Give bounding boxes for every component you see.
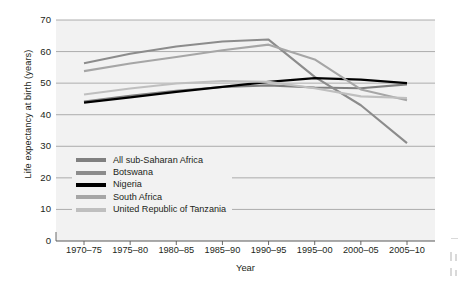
legend-label: Nigeria (113, 180, 142, 189)
x-axis-tick-label: 2005–10 (377, 245, 437, 255)
legend-item: United Republic of Tanzania (76, 204, 226, 216)
legend-item: Botswana (76, 166, 226, 178)
y-axis-tick-label: 70 (29, 15, 51, 25)
legend-color-swatch (76, 183, 106, 187)
cropped-edge-marks (449, 236, 463, 284)
edge-mark (451, 238, 458, 239)
legend-label: All sub-Saharan Africa (113, 156, 203, 165)
y-axis-tick-label: 20 (29, 173, 51, 183)
legend-color-swatch (76, 171, 106, 175)
y-axis-tick-label: 10 (29, 204, 51, 214)
y-axis-tick-labels: 010203040506070 (24, 0, 51, 291)
edge-mark (450, 252, 452, 261)
legend-color-swatch (76, 208, 106, 212)
series-line (84, 40, 407, 144)
legend-item: Nigeria (76, 179, 226, 191)
y-axis-tick-label: 60 (29, 47, 51, 57)
x-axis-title: Year (56, 262, 435, 273)
y-axis-tick-label: 30 (29, 141, 51, 151)
life-expectancy-line-chart: Life expectancy at birth (years) 0102030… (0, 0, 464, 291)
edge-mark (455, 254, 457, 261)
y-axis-tick-label: 50 (29, 78, 51, 88)
chart-legend: All sub-Saharan AfricaBotswanaNigeriaSou… (72, 150, 232, 220)
legend-item: South Africa (76, 191, 226, 203)
y-axis-tick-label: 0 (29, 236, 51, 246)
legend-label: Botswana (113, 168, 153, 177)
edge-mark (450, 268, 452, 276)
y-axis-tick-label: 40 (29, 110, 51, 120)
edge-mark (455, 270, 457, 276)
legend-label: United Republic of Tanzania (113, 205, 226, 214)
legend-label: South Africa (113, 193, 162, 202)
legend-color-swatch (76, 195, 106, 199)
legend-item: All sub-Saharan Africa (76, 154, 226, 166)
legend-color-swatch (76, 158, 106, 162)
x-axis-tick-labels: 1970–751975–801980–851985–901990–951995–… (56, 245, 435, 259)
